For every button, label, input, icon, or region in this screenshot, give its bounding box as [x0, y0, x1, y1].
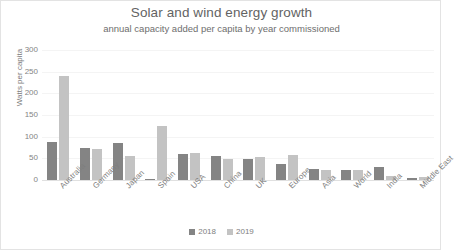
bar-group	[303, 50, 336, 180]
bar-2018-world[interactable]	[341, 170, 351, 180]
legend-swatch-2019	[227, 229, 233, 235]
title-block: Solar and wind energy growth annual capa…	[1, 5, 442, 35]
bar-2019-australia[interactable]	[59, 76, 69, 180]
y-tick-label: 200	[25, 89, 38, 97]
chart-subtitle: annual capacity added per capita by year…	[1, 22, 442, 35]
bars-layer	[42, 50, 434, 180]
plot-area: 300250200150100500	[42, 50, 434, 180]
x-label-cell: UK	[238, 182, 271, 228]
bar-group	[107, 50, 140, 180]
x-label-cell: Australia	[42, 182, 75, 228]
bar-2018-china[interactable]	[211, 156, 221, 180]
x-label-cell: USA	[173, 182, 206, 228]
bar-2018-india[interactable]	[374, 167, 384, 180]
bar-group	[401, 50, 434, 180]
y-tick-label: 150	[25, 111, 38, 119]
y-axis-title: Watts per capita	[15, 33, 24, 123]
legend-label-2018: 2018	[198, 228, 216, 236]
x-label-cell: India	[369, 182, 402, 228]
bar-2018-middle-east[interactable]	[407, 178, 417, 180]
bar-group	[271, 50, 304, 180]
x-axis-labels: AustraliaGermanyJapanSpainUSAChinaUKEuro…	[42, 182, 434, 228]
bar-group	[369, 50, 402, 180]
x-label-cell: Asia	[303, 182, 336, 228]
y-tick-label: 100	[25, 133, 38, 141]
x-label-cell: Spain	[140, 182, 173, 228]
bar-group	[336, 50, 369, 180]
bar-group	[205, 50, 238, 180]
bar-2018-australia[interactable]	[47, 142, 57, 180]
chart-legend: 20182019	[1, 228, 442, 236]
y-tick-label: 250	[25, 68, 38, 76]
legend-swatch-2018	[189, 229, 195, 235]
bar-group	[42, 50, 75, 180]
bar-group	[173, 50, 206, 180]
x-label-cell: China	[205, 182, 238, 228]
y-tick-label: 300	[25, 46, 38, 54]
bar-2018-uk[interactable]	[243, 159, 253, 180]
y-tick-label: 0	[34, 176, 38, 184]
x-label-cell: Germany	[75, 182, 108, 228]
x-label-cell: Japan	[107, 182, 140, 228]
x-label-cell: Europe	[271, 182, 304, 228]
bar-group	[238, 50, 271, 180]
bar-group	[140, 50, 173, 180]
bar-2018-europe[interactable]	[276, 164, 286, 180]
bar-2018-spain[interactable]	[145, 179, 155, 180]
bar-2018-usa[interactable]	[178, 154, 188, 180]
x-label-cell: World	[336, 182, 369, 228]
legend-item-2019[interactable]: 2019	[227, 228, 254, 236]
x-label-cell: Middle East	[401, 182, 434, 228]
legend-label-2019: 2019	[236, 228, 254, 236]
bar-2019-spain[interactable]	[157, 126, 167, 180]
page-title: Solar and wind energy growth	[1, 5, 442, 21]
y-tick-label: 50	[29, 154, 38, 162]
legend-item-2018[interactable]: 2018	[189, 228, 216, 236]
